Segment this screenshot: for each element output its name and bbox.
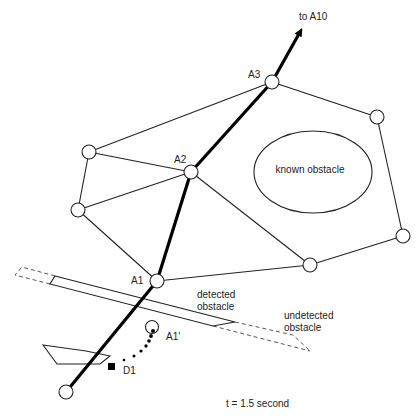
path-start-a1 bbox=[66, 281, 157, 392]
graph-edges bbox=[78, 82, 403, 281]
undetected-obstacle-label-1: undetected bbox=[284, 310, 334, 321]
navigation-diagram: known obstacle A1' D1 bbox=[0, 0, 419, 417]
undetected-obstacle-label-2: obstacle bbox=[284, 322, 322, 333]
path-a3-to-a10-arrow bbox=[272, 32, 300, 82]
a1-label: A1 bbox=[131, 275, 144, 286]
node-right bbox=[396, 229, 410, 243]
detected-obstacle-label-1: detected bbox=[197, 289, 235, 300]
edge-bottomright-a1 bbox=[157, 265, 310, 281]
node-left-upper bbox=[82, 145, 96, 159]
path-a1-a2 bbox=[157, 172, 191, 281]
edge-leftlower-a2 bbox=[78, 172, 191, 210]
planned-path bbox=[66, 32, 300, 392]
node-a2 bbox=[184, 165, 198, 179]
d1-vehicle-marker bbox=[108, 363, 115, 370]
node-a3 bbox=[265, 75, 279, 89]
edge-a2-bottomright bbox=[191, 172, 310, 265]
edge-leftlower-a1 bbox=[78, 210, 157, 281]
node-bottom-right bbox=[303, 258, 317, 272]
vehicle-shape bbox=[43, 345, 110, 364]
node-left-lower bbox=[71, 203, 85, 217]
to-a10-label: to A10 bbox=[299, 11, 328, 22]
time-label: t = 1.5 second bbox=[226, 398, 289, 409]
path-a2-a3 bbox=[191, 82, 272, 172]
a2-label: A2 bbox=[174, 154, 187, 165]
deviation-trajectory bbox=[123, 329, 155, 361]
edge-a3-topright bbox=[272, 82, 377, 117]
edge-leftupper-leftlower bbox=[78, 152, 89, 210]
a1-prime-label: A1' bbox=[166, 331, 180, 342]
edge-topright-right bbox=[377, 117, 403, 236]
node-top-right bbox=[370, 110, 384, 124]
node-start bbox=[59, 385, 73, 399]
known-obstacle-label: known obstacle bbox=[276, 164, 345, 175]
undetected-obstacle-left bbox=[15, 267, 55, 284]
a3-label: A3 bbox=[248, 69, 261, 80]
d1-label: D1 bbox=[123, 365, 136, 376]
edge-leftupper-a3 bbox=[89, 82, 272, 152]
edge-right-bottomright bbox=[310, 236, 403, 265]
detected-obstacle-label-2: obstacle bbox=[197, 301, 235, 312]
node-a1 bbox=[150, 274, 164, 288]
